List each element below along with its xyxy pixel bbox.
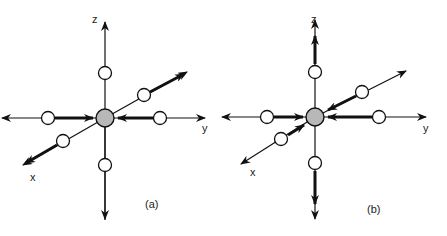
x-axis-label: x: [30, 171, 36, 183]
atom-x-lower: [57, 135, 70, 148]
atom-z-top: [99, 67, 112, 80]
atom-z-top: [309, 66, 322, 79]
atom-z-bottom: [99, 159, 112, 172]
x-axis-label: x: [250, 166, 256, 178]
atom-y-right: [154, 112, 167, 125]
figure-canvas: z y x (a) z y x (b): [0, 0, 447, 236]
y-axis-label: y: [202, 122, 208, 134]
z-axis-label: z: [92, 13, 98, 25]
center-atom: [306, 108, 324, 126]
y-axis-label: y: [423, 122, 429, 134]
z-axis-label: z: [311, 13, 317, 25]
atom-y-right: [373, 111, 386, 124]
displacement-arrow-x-lower-outward: [26, 145, 57, 163]
atom-x-lower: [275, 133, 288, 146]
displacement-arrow-x-lower-inward: [288, 125, 304, 135]
atom-y-left: [42, 112, 55, 125]
panel-caption: (b): [367, 203, 380, 215]
displacement-arrow-x-upper-outward: [150, 74, 184, 92]
panel-a: z y x (a): [2, 13, 208, 220]
atom-z-bottom: [309, 157, 322, 170]
center-atom: [96, 109, 114, 127]
atom-x-upper: [138, 89, 151, 102]
atom-x-upper: [356, 86, 369, 99]
displacement-arrow-x-upper-inward: [328, 96, 356, 110]
atom-y-left: [261, 111, 274, 124]
panel-caption: (a): [145, 198, 158, 210]
panel-b: z y x (b): [222, 13, 429, 219]
